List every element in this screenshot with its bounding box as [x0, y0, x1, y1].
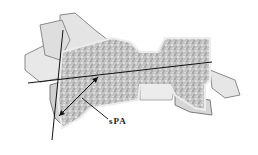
- spa-label: sPA: [109, 116, 127, 126]
- vertebral-body-section: [58, 38, 210, 128]
- vertebra-illustration: [0, 0, 258, 155]
